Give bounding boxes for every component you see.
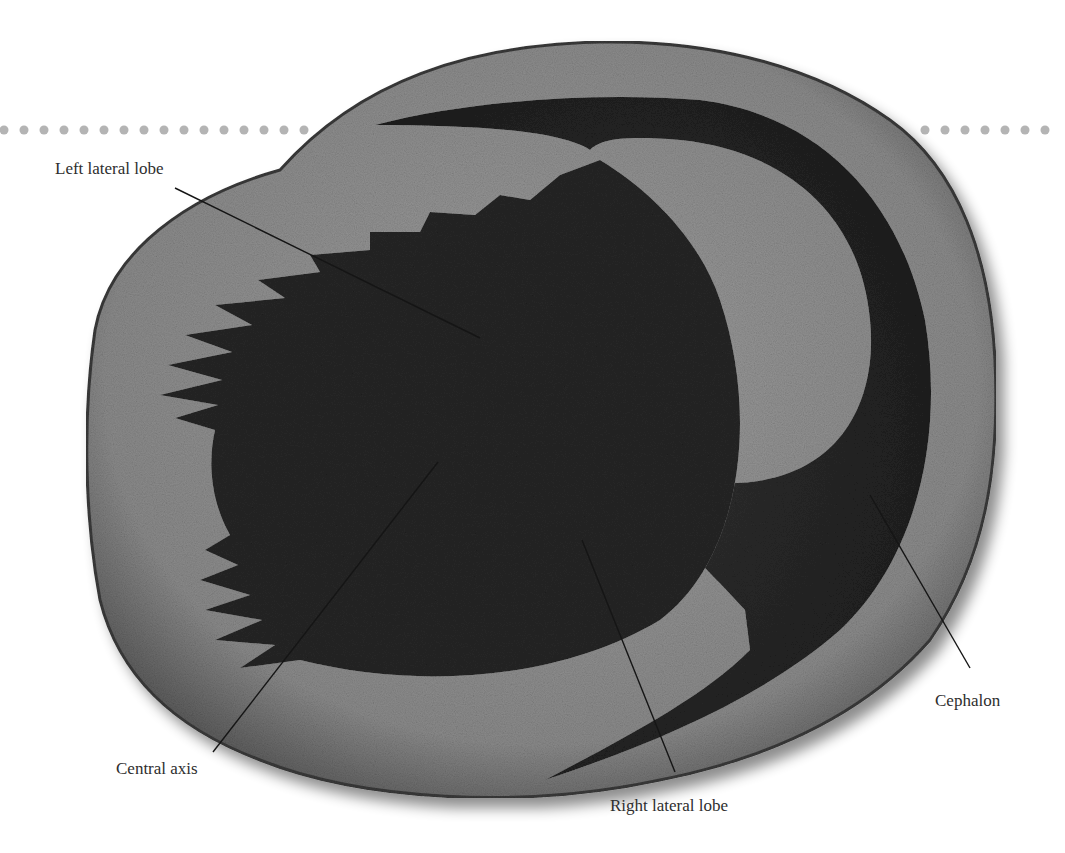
label-left-lateral-lobe: Left lateral lobe bbox=[55, 160, 164, 177]
dot bbox=[180, 126, 189, 135]
label-cephalon: Cephalon bbox=[935, 692, 1000, 709]
dot bbox=[0, 126, 9, 135]
dot bbox=[1041, 126, 1050, 135]
dot bbox=[240, 126, 249, 135]
specimen-illustration bbox=[0, 0, 1065, 853]
dot bbox=[40, 126, 49, 135]
dot bbox=[140, 126, 149, 135]
dot bbox=[160, 126, 169, 135]
dot bbox=[941, 126, 950, 135]
dot bbox=[981, 126, 990, 135]
dot bbox=[20, 126, 29, 135]
dot bbox=[280, 126, 289, 135]
dot bbox=[300, 126, 309, 135]
dot bbox=[80, 126, 89, 135]
dot bbox=[120, 126, 129, 135]
trilobite-figure: Left lateral lobe Central axis Right lat… bbox=[0, 0, 1065, 853]
label-central-axis: Central axis bbox=[116, 760, 198, 777]
label-right-lateral-lobe: Right lateral lobe bbox=[610, 797, 728, 814]
dot bbox=[60, 126, 69, 135]
dot bbox=[260, 126, 269, 135]
dot bbox=[921, 126, 930, 135]
dot bbox=[1001, 126, 1010, 135]
dot bbox=[1021, 126, 1030, 135]
dot bbox=[100, 126, 109, 135]
dot bbox=[200, 126, 209, 135]
dot bbox=[220, 126, 229, 135]
dot bbox=[961, 126, 970, 135]
